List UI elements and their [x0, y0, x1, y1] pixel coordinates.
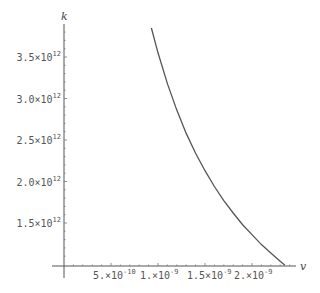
- y-tick-label: 3.5×1012: [16, 50, 61, 63]
- y-tick-label: 1.5×1012: [16, 216, 61, 229]
- data-curve: [151, 28, 285, 265]
- axes: [52, 24, 296, 278]
- y-tick-label: 3.0×1012: [16, 92, 61, 105]
- y-axis-label: k: [61, 10, 68, 23]
- y-tick-label: 2.0×1012: [16, 175, 61, 188]
- x-tick-label: 1.5×10-9: [187, 268, 232, 281]
- y-tick-label: 2.5×1012: [16, 133, 61, 146]
- plot-area: 5.×10-101.×10-91.5×10-92.×10-91.5×10122.…: [0, 0, 320, 293]
- x-tick-label: 1.×10-9: [140, 268, 179, 281]
- tick-labels: 5.×10-101.×10-91.5×10-92.×10-91.5×10122.…: [16, 50, 272, 281]
- x-tick-label: 5.×10-10: [93, 268, 136, 281]
- axis-ticks: [64, 32, 290, 266]
- x-axis-label: v: [300, 260, 307, 273]
- x-tick-label: 2.×10-9: [234, 268, 273, 281]
